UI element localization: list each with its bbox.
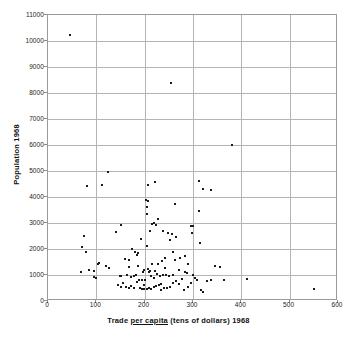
data-point — [136, 281, 138, 283]
data-point — [159, 275, 161, 277]
x-tick-label: 0 — [45, 301, 49, 308]
data-point — [122, 282, 124, 284]
data-point — [128, 266, 130, 268]
data-point — [140, 238, 142, 240]
data-point — [174, 203, 176, 205]
x-tick-label: 200 — [138, 301, 149, 308]
data-point — [160, 283, 162, 285]
x-axis-tick-labels: 0100200300400500600 — [47, 301, 337, 315]
y-axis-title: Population 1968 — [12, 107, 21, 203]
x-tick-label: 300 — [186, 301, 197, 308]
data-point — [149, 230, 151, 232]
data-point — [131, 248, 133, 250]
data-point — [172, 251, 174, 253]
gridline-horizontal — [48, 223, 336, 224]
gridline-horizontal — [48, 93, 336, 94]
data-point — [165, 274, 167, 276]
data-point — [146, 213, 148, 215]
x-axis-title-post: (tens of dollars) 1968 — [168, 316, 250, 325]
data-point — [151, 263, 153, 265]
x-axis-title-emphasis: per capita — [131, 316, 168, 325]
data-point — [147, 184, 149, 186]
data-point — [214, 265, 216, 267]
x-tick-label: 500 — [283, 301, 294, 308]
gridline-vertical — [290, 15, 291, 299]
data-point — [246, 278, 248, 280]
data-point — [128, 287, 130, 289]
data-point — [101, 184, 103, 186]
data-point — [161, 260, 163, 262]
data-point — [192, 225, 194, 227]
data-point — [69, 34, 71, 36]
data-point — [136, 254, 138, 256]
data-point — [169, 286, 171, 288]
gridline-horizontal — [48, 249, 336, 250]
data-point — [168, 275, 170, 277]
data-point — [187, 286, 189, 288]
data-point — [147, 200, 149, 202]
data-point — [141, 279, 143, 281]
data-point — [143, 284, 145, 286]
data-point — [137, 265, 139, 267]
gridline-vertical — [96, 15, 97, 299]
data-point — [179, 257, 181, 259]
data-point — [85, 251, 87, 253]
data-point — [138, 279, 140, 281]
data-point — [86, 185, 88, 187]
gridline-horizontal — [48, 41, 336, 42]
data-point — [162, 274, 164, 276]
data-point — [190, 225, 192, 227]
data-point — [313, 288, 315, 290]
gridline-horizontal — [48, 67, 336, 68]
data-point — [81, 246, 83, 248]
data-point — [178, 283, 180, 285]
y-axis-tick-labels: 0100020003000400050006000700080009000100… — [0, 14, 44, 300]
data-point — [98, 262, 100, 264]
data-point — [154, 181, 156, 183]
data-point — [198, 180, 200, 182]
data-point — [196, 279, 198, 281]
data-point — [172, 282, 174, 284]
data-point — [135, 274, 137, 276]
data-point — [88, 269, 90, 271]
data-point — [175, 236, 177, 238]
data-point — [163, 287, 165, 289]
data-point — [210, 189, 212, 191]
data-point — [108, 267, 110, 269]
gridline-vertical — [193, 15, 194, 299]
data-point — [130, 276, 132, 278]
data-point — [167, 232, 169, 234]
data-point — [154, 270, 156, 272]
data-point — [219, 266, 221, 268]
x-tick-label: 100 — [90, 301, 101, 308]
data-point — [153, 277, 155, 279]
x-axis-title-pre: Trade — [107, 316, 130, 325]
gridline-horizontal — [48, 119, 336, 120]
data-point — [120, 224, 122, 226]
scatter-plot-figure: 0100020003000400050006000700080009000100… — [0, 0, 357, 337]
plot-area — [47, 14, 337, 300]
data-point — [164, 267, 166, 269]
data-point — [149, 270, 151, 272]
data-point — [157, 218, 159, 220]
data-point — [164, 257, 166, 259]
data-point — [206, 280, 208, 282]
data-point — [223, 279, 225, 281]
data-point — [120, 275, 122, 277]
data-point — [160, 289, 162, 291]
data-point — [231, 144, 233, 146]
data-point — [184, 255, 186, 257]
gridline-horizontal — [48, 145, 336, 146]
data-point — [155, 224, 157, 226]
data-point — [142, 271, 144, 273]
x-tick-label: 600 — [331, 301, 342, 308]
data-point — [144, 279, 146, 281]
data-point — [146, 245, 148, 247]
data-point — [80, 271, 82, 273]
data-point — [174, 259, 176, 261]
data-point — [186, 272, 188, 274]
data-point — [124, 258, 126, 260]
data-point — [115, 231, 117, 233]
data-point — [170, 82, 172, 84]
data-point — [178, 269, 180, 271]
